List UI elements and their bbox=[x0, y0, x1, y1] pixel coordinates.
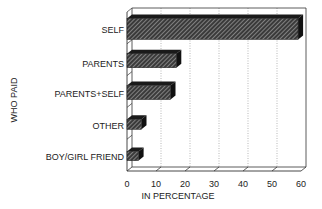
x-tick-label: 60 bbox=[296, 179, 306, 189]
x-axis-title: IN PERCENTAGE bbox=[142, 191, 215, 201]
bars bbox=[127, 14, 303, 160]
bar-chart-plot bbox=[0, 0, 322, 209]
x-tick-label: 30 bbox=[209, 179, 219, 189]
bar-parents-self bbox=[127, 86, 171, 100]
bar-boy-girl-friend bbox=[127, 152, 139, 161]
x-tick-label: 50 bbox=[267, 179, 277, 189]
x-tick-label: 40 bbox=[238, 179, 248, 189]
x-tick-label: 0 bbox=[124, 179, 129, 189]
bar-other bbox=[127, 119, 142, 129]
x-tick-label: 10 bbox=[151, 179, 161, 189]
bar-self bbox=[127, 18, 298, 39]
bar-parents bbox=[127, 54, 176, 68]
x-tick-label: 20 bbox=[180, 179, 190, 189]
